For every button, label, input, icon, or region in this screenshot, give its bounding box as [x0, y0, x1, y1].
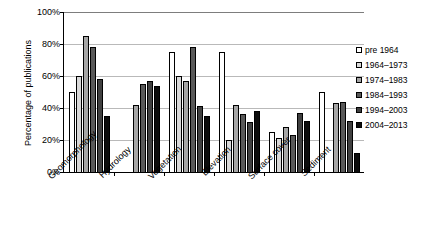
- y-tick-label: 100%: [37, 7, 60, 17]
- bar: [183, 81, 189, 172]
- legend-item: 1964–1973: [356, 57, 442, 72]
- legend-label: 1984–1993: [365, 90, 408, 100]
- y-axis-title: Percentage of publications: [23, 13, 33, 173]
- bar: [354, 153, 360, 172]
- bar-groups: [64, 12, 364, 172]
- bar: [233, 105, 239, 172]
- legend-swatch: [356, 92, 362, 98]
- legend-item: 1984–1993: [356, 87, 442, 102]
- bar: [83, 36, 89, 172]
- x-axis-labels: GeomorphologyHydrologyVegetationElevatio…: [63, 174, 363, 244]
- bar: [340, 102, 346, 172]
- bar: [154, 86, 160, 172]
- legend-swatch: [356, 47, 362, 53]
- bar: [147, 81, 153, 172]
- legend-swatch: [356, 62, 362, 68]
- bar: [140, 84, 146, 172]
- bar: [133, 105, 139, 172]
- legend-item: pre 1964: [356, 42, 442, 57]
- bar: [347, 121, 353, 172]
- bar: [333, 103, 339, 172]
- bar: [297, 113, 303, 172]
- bar: [197, 106, 203, 172]
- legend-item: 2004–2013: [356, 117, 442, 132]
- legend-swatch: [356, 77, 362, 83]
- y-tick-label: 40%: [42, 103, 60, 113]
- legend: pre 19641964–19731974–19831984–19931994–…: [356, 42, 442, 132]
- bar: [247, 122, 253, 172]
- bar-chart: Percentage of publications 0%20%40%60%80…: [0, 0, 444, 249]
- y-tick-label: 20%: [42, 135, 60, 145]
- plot-area: 0%20%40%60%80%100%: [63, 12, 364, 173]
- legend-label: 1964–1973: [365, 60, 408, 70]
- bar: [97, 79, 103, 172]
- legend-item: 1994–2003: [356, 102, 442, 117]
- legend-swatch: [356, 107, 362, 113]
- legend-label: 1974–1983: [365, 75, 408, 85]
- legend-item: 1974–1983: [356, 72, 442, 87]
- y-tick-label: 80%: [42, 39, 60, 49]
- legend-label: pre 1964: [365, 45, 399, 55]
- legend-label: 2004–2013: [365, 120, 408, 130]
- legend-label: 1994–2003: [365, 105, 408, 115]
- bar: [190, 47, 196, 172]
- legend-swatch: [356, 122, 362, 128]
- y-tick-label: 60%: [42, 71, 60, 81]
- bar: [90, 47, 96, 172]
- bar: [240, 114, 246, 172]
